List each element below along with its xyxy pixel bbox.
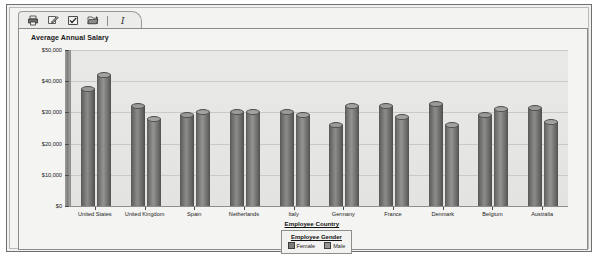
bar-female-denmark [429, 101, 443, 206]
y-tick [65, 144, 69, 145]
bar-body [494, 109, 508, 206]
bar-body [180, 115, 194, 206]
bar-body [296, 115, 310, 206]
bar-cap [147, 116, 161, 122]
bar-body [131, 106, 145, 206]
gridline [71, 81, 568, 82]
bar-cap [97, 72, 111, 78]
bar-male-germany [345, 103, 359, 206]
bar-cap [131, 103, 145, 109]
bar-body [429, 104, 443, 206]
x-tick-label: Denmark [418, 211, 468, 217]
bar-body [379, 106, 393, 206]
print-icon[interactable] [24, 13, 41, 28]
x-tick [343, 207, 344, 210]
legend-label: Female [297, 243, 316, 249]
x-tick [443, 207, 444, 210]
bar-male-belgium [494, 106, 508, 206]
bar-male-united-kingdom [147, 116, 161, 206]
bar-body [230, 112, 244, 206]
gridline [71, 50, 568, 51]
bar-female-belgium [478, 112, 492, 206]
chart-panel: Average Annual Salary $0$10,000$20,000$3… [18, 28, 588, 250]
bar-male-italy [296, 112, 310, 206]
bar-female-united-kingdom [131, 103, 145, 206]
legend: Employee Gender FemaleMale [281, 230, 353, 254]
bar-body [196, 112, 210, 206]
legend-swatch [288, 242, 295, 249]
bar-body [280, 112, 294, 206]
check-box-icon[interactable] [64, 13, 81, 28]
bar-cap [528, 105, 542, 111]
svg-text:I: I [120, 16, 125, 26]
legend-item-male[interactable]: Male [324, 242, 345, 249]
bar-body [395, 117, 409, 206]
legend-swatch [324, 242, 331, 249]
bar-female-italy [280, 109, 294, 206]
bar-cap [329, 122, 343, 128]
bar-male-united-states [97, 72, 111, 206]
plot-area [70, 50, 568, 207]
y-tick-label: $20,000 [19, 141, 62, 147]
bar-cap [544, 119, 558, 125]
y-tick-label: $40,000 [19, 78, 62, 84]
bar-female-australia [528, 105, 542, 206]
bar-body [478, 115, 492, 206]
legend-title: Employee Gender [288, 234, 346, 240]
x-tick-label: Italy [269, 211, 319, 217]
bar-body [544, 122, 558, 206]
bar-body [81, 89, 95, 206]
bar-female-germany [329, 122, 343, 206]
bar-male-netherlands [246, 109, 260, 206]
y-tick [65, 206, 69, 207]
bar-body [445, 125, 459, 206]
x-tick [393, 207, 394, 210]
x-tick [95, 207, 96, 210]
x-tick [542, 207, 543, 210]
bar-male-spain [196, 109, 210, 206]
x-tick-label: Australia [517, 211, 567, 217]
window-frame-inner: I Average Annual Salary $0$10,000$20,000… [9, 7, 589, 249]
x-tick [194, 207, 195, 210]
x-tick [145, 207, 146, 210]
x-tick [244, 207, 245, 210]
italic-icon[interactable]: I [114, 13, 131, 28]
x-tick-label: Belgium [468, 211, 518, 217]
bar-male-denmark [445, 122, 459, 206]
bar-cap [81, 86, 95, 92]
y-tick [65, 112, 69, 113]
x-tick [492, 207, 493, 210]
bar-body [147, 119, 161, 206]
x-tick-label: Spain [169, 211, 219, 217]
y-tick-label: $0 [19, 203, 62, 209]
bar-female-france [379, 103, 393, 206]
edit-icon[interactable] [44, 13, 61, 28]
x-tick-label: Germany [319, 211, 369, 217]
bar-female-spain [180, 112, 194, 206]
gridline [71, 112, 568, 113]
bar-male-australia [544, 119, 558, 206]
legend-item-female[interactable]: Female [288, 242, 316, 249]
open-folder-icon[interactable] [84, 13, 101, 28]
x-tick-label: Netherlands [219, 211, 269, 217]
y-tick-label: $10,000 [19, 172, 62, 178]
bar-body [97, 75, 111, 206]
bar-cap [395, 114, 409, 120]
y-tick [65, 175, 69, 176]
chart-window: I Average Annual Salary $0$10,000$20,000… [0, 0, 599, 257]
bar-body [246, 112, 260, 206]
gridline [71, 175, 568, 176]
legend-items: FemaleMale [288, 242, 346, 249]
bar-body [329, 125, 343, 206]
bar-body [345, 106, 359, 206]
toolbar-separator [107, 16, 108, 26]
chart-title: Average Annual Salary [31, 34, 109, 41]
y-tick-label: $50,000 [19, 47, 62, 53]
x-tick-label: United States [70, 211, 120, 217]
y-tick [65, 50, 69, 51]
plot-background [71, 50, 568, 206]
window-frame: I Average Annual Salary $0$10,000$20,000… [6, 4, 592, 252]
y-tick [65, 81, 69, 82]
legend-label: Male [333, 243, 345, 249]
bar-female-netherlands [230, 109, 244, 206]
